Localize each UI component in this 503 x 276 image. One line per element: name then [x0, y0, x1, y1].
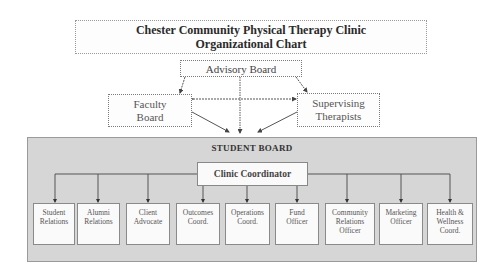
- role-label-line2: Officer: [390, 217, 412, 226]
- faculty-board-label-line2: Board: [137, 111, 164, 124]
- role-label-line1: Community: [332, 208, 368, 217]
- role-label-line2: Coord.: [188, 217, 209, 226]
- faculty-board-label-line1: Faculty: [134, 98, 167, 111]
- role-label-line2: Relations: [40, 217, 68, 226]
- role-label-line1: Health &: [436, 208, 464, 217]
- role-community-relations-officer: Community Relations Officer: [325, 203, 375, 245]
- clinic-coordinator-label: Clinic Coordinator: [214, 169, 291, 179]
- role-outcomes-coord: Outcomes Coord.: [176, 203, 220, 245]
- role-alumni-relations: Alumni Relations: [77, 203, 120, 245]
- role-label-line2: Wellness: [437, 217, 464, 226]
- role-label-line3: Coord.: [440, 226, 461, 235]
- role-label-line2: Officer: [286, 217, 308, 226]
- role-marketing-officer: Marketing Officer: [379, 203, 423, 245]
- clinic-coordinator-box: Clinic Coordinator: [197, 162, 308, 186]
- chart-title-box: Chester Community Physical Therapy Clini…: [75, 20, 427, 54]
- role-label-line2: Relations: [84, 217, 112, 226]
- role-label-line2: Relations: [336, 217, 364, 226]
- role-fund-officer: Fund Officer: [275, 203, 319, 245]
- role-label-line1: Client: [139, 208, 157, 217]
- role-label-line2: Coord.: [237, 217, 258, 226]
- role-label-line1: Outcomes: [183, 208, 213, 217]
- role-label-line3: Officer: [339, 226, 361, 235]
- chart-title-line1: Chester Community Physical Therapy Clini…: [136, 23, 366, 37]
- chart-title-line2: Organizational Chart: [196, 37, 307, 51]
- student-board-title: STUDENT BOARD: [28, 143, 476, 153]
- role-client-advocate: Client Advocate: [126, 203, 170, 245]
- role-label-line1: Alumni: [87, 208, 110, 217]
- supervising-therapists-box: Supervising Therapists: [297, 93, 380, 127]
- role-label-line2: Advocate: [134, 217, 163, 226]
- role-student-relations: Student Relations: [33, 203, 75, 245]
- role-operations-coord: Operations Coord.: [225, 203, 270, 245]
- role-label-line1: Fund: [289, 208, 304, 217]
- advisory-board-box: Advisory Board: [180, 60, 302, 77]
- role-label-line1: Operations: [231, 208, 264, 217]
- role-health-wellness-coord: Health & Wellness Coord.: [427, 203, 473, 245]
- supervising-therapists-label-line2: Therapists: [316, 110, 362, 123]
- role-label-line1: Marketing: [385, 208, 416, 217]
- faculty-board-box: Faculty Board: [108, 94, 192, 127]
- role-label-line1: Student: [43, 208, 66, 217]
- advisory-board-label: Advisory Board: [206, 63, 277, 75]
- supervising-therapists-label-line1: Supervising: [312, 97, 365, 110]
